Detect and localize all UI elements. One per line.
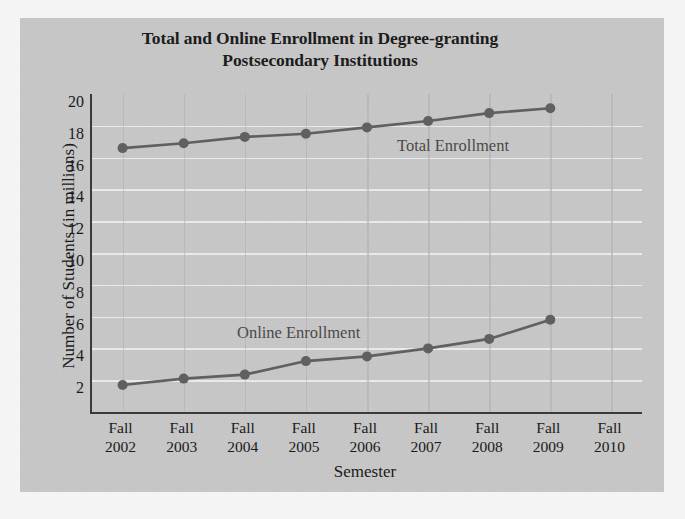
y-axis-tick: 2	[52, 380, 84, 396]
y-axis-tick: 20	[52, 94, 84, 110]
x-axis-tick: Fall2010	[576, 418, 642, 456]
chart-title-line-1: Total and Online Enrollment in Degree-gr…	[60, 27, 580, 49]
x-axis-tick: Fall2008	[454, 418, 520, 456]
data-point-marker	[179, 138, 189, 148]
y-axis-tick: 6	[52, 317, 84, 333]
x-axis-tick-labels: Fall2002Fall2003Fall2004Fall2005Fall2006…	[90, 418, 640, 462]
y-axis-tick: 8	[52, 285, 84, 301]
data-point-marker	[362, 351, 372, 361]
data-point-marker	[301, 129, 311, 139]
x-axis-tick-season: Fall	[454, 418, 520, 437]
x-axis-label: Semester	[90, 462, 640, 482]
y-axis-tick: 16	[52, 158, 84, 174]
data-point-marker	[423, 343, 433, 353]
y-axis-tick: 12	[52, 221, 84, 237]
y-axis-tick: 4	[52, 348, 84, 364]
data-point-marker	[118, 380, 128, 390]
series-label-total-enrollment: Total Enrollment	[397, 136, 509, 156]
x-axis-tick-season: Fall	[210, 418, 276, 437]
plot-area: Total Enrollment Online Enrollment	[90, 94, 642, 414]
x-axis-tick-season: Fall	[576, 418, 642, 437]
y-axis-tick: 18	[52, 126, 84, 142]
data-point-marker	[423, 116, 433, 126]
x-axis-tick-season: Fall	[88, 418, 154, 437]
data-point-marker	[301, 356, 311, 366]
series-lines	[92, 94, 642, 412]
x-axis-tick: Fall2009	[515, 418, 581, 456]
x-axis-tick-year: 2010	[576, 437, 642, 456]
x-axis-tick-year: 2004	[210, 437, 276, 456]
x-axis-tick-season: Fall	[393, 418, 459, 437]
x-axis-tick: Fall2007	[393, 418, 459, 456]
y-axis-tick-labels: 2018161412108642	[52, 88, 84, 412]
data-point-marker	[545, 315, 555, 325]
y-axis-tick: 14	[52, 189, 84, 205]
x-axis-tick-year: 2002	[88, 437, 154, 456]
data-point-marker	[118, 143, 128, 153]
x-axis-tick-year: 2006	[332, 437, 398, 456]
x-axis-tick: Fall2002	[88, 418, 154, 456]
data-point-marker	[545, 103, 555, 113]
x-axis-tick-year: 2008	[454, 437, 520, 456]
data-point-marker	[240, 370, 250, 380]
x-axis-tick-season: Fall	[149, 418, 215, 437]
data-point-marker	[484, 108, 494, 118]
x-axis-tick-season: Fall	[332, 418, 398, 437]
x-axis-tick: Fall2004	[210, 418, 276, 456]
x-axis-tick-year: 2003	[149, 437, 215, 456]
chart-page: Total and Online Enrollment in Degree-gr…	[0, 0, 685, 519]
data-point-marker	[484, 334, 494, 344]
x-axis-tick: Fall2006	[332, 418, 398, 456]
x-axis-tick: Fall2005	[271, 418, 337, 456]
x-axis-tick-year: 2009	[515, 437, 581, 456]
data-point-marker	[362, 122, 372, 132]
x-axis-tick-season: Fall	[271, 418, 337, 437]
data-point-marker	[179, 374, 189, 384]
chart-title-line-2: Postsecondary Institutions	[60, 49, 580, 71]
x-axis-tick-year: 2005	[271, 437, 337, 456]
page-title: Total and Online Enrollment in Degree-gr…	[60, 27, 580, 71]
y-axis-tick: 10	[52, 253, 84, 269]
series-label-online-enrollment: Online Enrollment	[237, 323, 360, 343]
x-axis-tick-season: Fall	[515, 418, 581, 437]
x-axis-tick-year: 2007	[393, 437, 459, 456]
data-point-marker	[240, 132, 250, 142]
x-axis-tick: Fall2003	[149, 418, 215, 456]
